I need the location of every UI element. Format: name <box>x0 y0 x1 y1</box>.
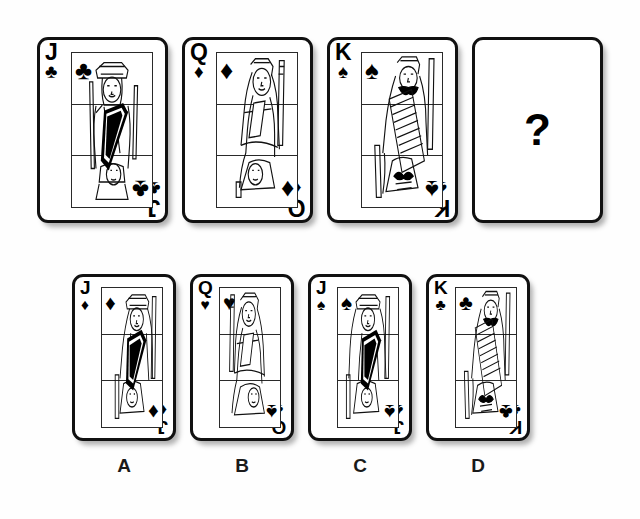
option-label-d: D <box>426 455 530 485</box>
corner-index-top-left: J ♦ <box>80 280 90 312</box>
card-rank: J <box>45 43 57 62</box>
corner-index-top-left: K ♣ <box>434 280 447 312</box>
card-sequence-row: J ♣ J ♣ ♣ ♣ <box>37 37 603 223</box>
card-rank: K <box>335 43 351 62</box>
court-figure-jack <box>72 53 152 207</box>
card-suit-pip: ♥ <box>201 297 210 313</box>
option-labels-row: A B C D <box>72 455 530 485</box>
card-picture-frame: ♣ ♣ <box>71 52 153 208</box>
card-rank: Q <box>190 43 207 62</box>
court-figure-queen <box>217 53 297 207</box>
court-figure-jack <box>338 288 398 427</box>
option-card-b-queen-of-hearts[interactable]: Q ♥ Q ♠ ♥ ♠ <box>190 274 294 441</box>
card-picture-frame: ♠ ♠ <box>337 287 399 428</box>
corner-index-top-left: Q ♦ <box>190 43 207 82</box>
card-picture-frame: ♠ ♠ <box>361 52 443 208</box>
card-suit-pip: ♠ <box>338 63 348 82</box>
option-label-c: C <box>308 455 412 485</box>
card-picture-frame: ♣ ♣ <box>455 287 517 428</box>
sequence-card-unknown[interactable]: ? <box>472 37 603 223</box>
card-picture-frame: ♦ ♦ <box>216 52 298 208</box>
sequence-card-king-of-spades[interactable]: K ♠ K ♠ ♠ ♠ <box>327 37 458 223</box>
card-suit-pip: ♠ <box>317 297 325 313</box>
card-picture-frame: ♦ ♦ <box>101 287 163 428</box>
card-suit-pip: ♣ <box>45 63 57 82</box>
court-figure-king <box>362 53 442 207</box>
card-rank: Q <box>198 280 212 296</box>
court-figure-queen <box>220 288 280 427</box>
option-label-a: A <box>72 455 176 485</box>
sequence-card-queen-of-diamonds[interactable]: Q ♦ Q ♦ ♦ ♦ <box>182 37 313 223</box>
card-suit-pip: ♦ <box>81 297 89 313</box>
option-label-b: B <box>190 455 294 485</box>
card-picture-frame: ♥ ♠ <box>219 287 281 428</box>
card-rank: J <box>80 280 90 296</box>
option-card-c-jack-of-spades[interactable]: J ♠ J ♠ ♠ ♠ <box>308 274 412 441</box>
option-card-a-jack-of-diamonds[interactable]: J ♦ J ♦ ♦ ♦ <box>72 274 176 441</box>
option-card-d-king-of-clubs[interactable]: K ♣ K ♣ ♣ ♣ <box>426 274 530 441</box>
court-figure-jack <box>102 288 162 427</box>
corner-index-top-left: J ♣ <box>45 43 57 82</box>
card-rank: K <box>434 280 447 296</box>
card-suit-pip: ♣ <box>436 297 446 313</box>
answer-options-row: J ♦ J ♦ ♦ ♦ <box>72 274 530 441</box>
puzzle-root: J ♣ J ♣ ♣ ♣ <box>0 0 640 519</box>
corner-index-top-left: J ♠ <box>316 280 326 312</box>
corner-index-top-left: K ♠ <box>335 43 351 82</box>
court-figure-king <box>456 288 516 427</box>
question-mark-symbol: ? <box>475 40 600 220</box>
card-rank: J <box>316 280 326 296</box>
corner-index-top-left: Q ♥ <box>198 280 212 312</box>
card-suit-pip: ♦ <box>194 63 204 82</box>
sequence-card-jack-of-clubs[interactable]: J ♣ J ♣ ♣ ♣ <box>37 37 168 223</box>
